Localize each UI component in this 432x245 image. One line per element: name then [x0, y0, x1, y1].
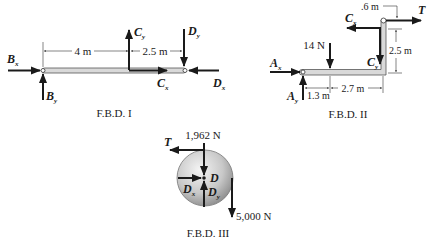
caption-fbd-3: F.B.D. III [187, 227, 230, 239]
dim-4m: 4 m [75, 45, 92, 57]
fbd-1: 4 m 2.5 m Bx By Cy Cx Dy Dx F.B.D. I [6, 24, 226, 119]
fbd-2: Ax Ay 14 N Cx Cy T .6 m 2.5 m 1.3 m 2.7 … [269, 1, 426, 120]
label-t-3: T [164, 135, 172, 149]
label-bx: Bx [6, 52, 19, 68]
caption-fbd-1: F.B.D. I [96, 107, 132, 119]
fbd-3: T 1,962 N Dx Dy D 5,000 N F.B.D. III [164, 129, 272, 239]
dim-1-3m: 1.3 m [307, 90, 330, 101]
label-cy-2: Cy [367, 55, 379, 71]
dim-2-5m-vertical: 2.5 m [389, 45, 412, 56]
dim-2-7m: 2.7 m [342, 83, 365, 94]
label-cx: Cx [157, 76, 169, 92]
pin-b [41, 69, 45, 73]
dim-0-6m: .6 m [361, 1, 379, 12]
label-by: By [45, 89, 58, 105]
label-cy: Cy [134, 25, 146, 41]
pulley-center [202, 176, 206, 180]
label-dy: Dy [187, 24, 201, 40]
label-1962n: 1,962 N [185, 129, 221, 141]
label-ax: Ax [269, 56, 282, 72]
label-center-d: D [209, 171, 219, 185]
caption-fbd-2: F.B.D. II [329, 108, 368, 120]
pin-top [381, 18, 386, 23]
label-dx: Dx [212, 76, 226, 92]
label-cx-2: Cx [345, 11, 357, 27]
free-body-diagrams: 4 m 2.5 m Bx By Cy Cx Dy Dx F.B.D. I Ax [0, 0, 432, 245]
dim-2-5m: 2.5 m [142, 45, 168, 57]
label-14n: 14 N [303, 39, 325, 51]
dim-line-0-6m [383, 6, 397, 18]
pin-d [183, 69, 187, 73]
label-5000n: 5,000 N [236, 210, 272, 222]
label-ay: Ay [286, 89, 299, 105]
label-t-2: T [418, 3, 426, 17]
pin-a [301, 70, 305, 74]
